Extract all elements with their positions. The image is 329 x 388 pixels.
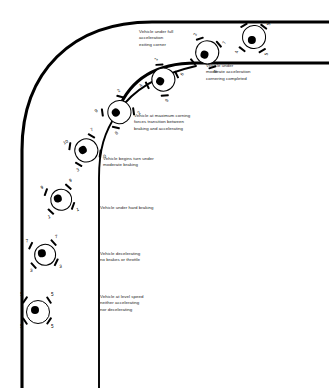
tyre-load-front-right: 7	[55, 234, 58, 239]
label-hard-braking: Vehicle under hard braking	[100, 205, 154, 211]
tyre-load-front-right: 4	[236, 20, 241, 23]
tyre-load-rear-left: 5	[264, 53, 269, 56]
tyre-load-rear-left: 5	[20, 324, 23, 329]
tyre-load-front-right: 5	[51, 292, 54, 297]
vehicle-center-mass	[31, 306, 39, 314]
label-full-accel: Vehicle under full acceleration exiting …	[139, 29, 173, 48]
tyre-load-front-left: 7	[25, 238, 28, 243]
label-begins-turn: Vehicle begins turn under moderate braki…	[103, 156, 154, 169]
diagram-canvas: Vehicle under full acceleration exiting …	[0, 0, 329, 388]
track-svg	[0, 0, 329, 388]
label-decelerating: Vehicle decelerating no brakes or thrott…	[100, 251, 140, 264]
tyre-load-front-left: 5	[20, 292, 23, 297]
tyre-load-rear-right: 5	[51, 324, 54, 329]
tyre-load-rear-right: 3	[59, 264, 62, 269]
label-max-cornering: Vehicle at maximum corning forces transi…	[134, 113, 190, 132]
tyre-load-rear-left: 3	[30, 268, 33, 273]
label-level-speed: Vehicle at level speed neither accelerat…	[100, 294, 144, 313]
tyre-load-rear-right: 5	[266, 23, 271, 26]
tyre-load-front-left: 4	[233, 51, 238, 54]
